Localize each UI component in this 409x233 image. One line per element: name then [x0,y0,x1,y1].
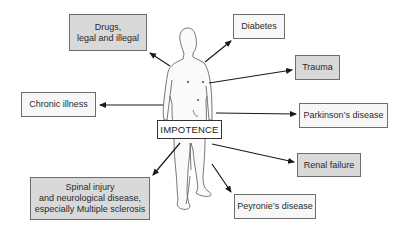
cause-peyronies: Peyronie’s disease [234,194,316,219]
cause-label: Diabetes [241,21,277,32]
human-figure-icon [163,28,212,209]
cause-spinal-injury: Spinal injury and neurological disease, … [30,177,150,220]
arrow-parkinsons [216,113,296,114]
center-label-text: IMPOTENCE [160,124,218,135]
arrow-diabetes [205,41,231,62]
figure-nipple-left [187,81,189,83]
center-label-impotence: IMPOTENCE [157,120,222,139]
cause-trauma: Trauma [295,55,340,80]
cause-renal-failure: Renal failure [297,153,361,177]
impotence-causes-diagram: Drugs, legal and illegal Diabetes Trauma… [0,0,409,233]
figure-navel [197,99,199,101]
cause-chronic-illness: Chronic illness [21,92,96,117]
figure-nipple-right [202,81,204,83]
cause-diabetes: Diabetes [233,14,285,39]
cause-label: Renal failure [304,160,355,171]
cause-label: Trauma [302,62,333,73]
cause-parkinsons: Parkinson’s disease [299,103,388,128]
cause-label: Chronic illness [29,99,88,110]
cause-label: Spinal injury and neurological disease, … [35,182,146,215]
arrow-peyronies [212,164,231,192]
cause-label: Peyronie’s disease [237,201,312,212]
arrow-trauma [209,70,292,83]
cause-label: Drugs, legal and illegal [77,22,139,44]
arrow-drugs [150,53,170,66]
cause-drugs: Drugs, legal and illegal [69,14,147,51]
cause-label: Parkinson’s disease [304,110,384,121]
arrow-renal-failure [212,144,294,162]
